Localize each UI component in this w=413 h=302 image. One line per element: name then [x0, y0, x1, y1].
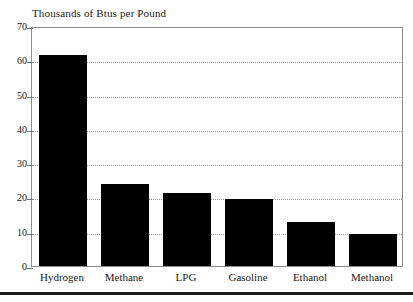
bar-lpg	[163, 193, 211, 266]
x-tick-label-methanol: Methanol	[341, 270, 403, 284]
x-tick-label-hydrogen: Hydrogen	[31, 270, 93, 284]
x-axis-labels: HydrogenMethaneLPGGasolineEthanolMethano…	[31, 270, 403, 290]
bottom-rule-divider	[0, 292, 413, 295]
bar-gasoline	[225, 199, 273, 266]
y-tick-label-0: 0	[1, 262, 27, 272]
chart-title: Thousands of Btus per Pound	[32, 7, 166, 19]
y-axis-labels: 010203040506070	[0, 27, 27, 267]
y-tick-label-50: 50	[1, 91, 27, 101]
bar-methanol	[349, 234, 397, 266]
bar-chart-figure: Thousands of Btus per Pound 010203040506…	[0, 0, 413, 302]
x-tick-label-ethanol: Ethanol	[279, 270, 341, 284]
y-tick-label-10: 10	[1, 228, 27, 238]
y-tick-mark-0	[27, 268, 33, 269]
bar-ethanol	[287, 222, 335, 266]
bar-methane	[101, 184, 149, 266]
y-tick-label-20: 20	[1, 193, 27, 203]
y-tick-label-40: 40	[1, 125, 27, 135]
y-tick-label-30: 30	[1, 159, 27, 169]
bar-series	[32, 28, 402, 266]
x-tick-label-gasoline: Gasoline	[217, 270, 279, 284]
plot-area	[31, 27, 403, 267]
x-tick-label-lpg: LPG	[155, 270, 217, 284]
x-tick-label-methane: Methane	[93, 270, 155, 284]
bar-hydrogen	[39, 55, 87, 266]
y-tick-label-70: 70	[1, 22, 27, 32]
y-tick-label-60: 60	[1, 56, 27, 66]
